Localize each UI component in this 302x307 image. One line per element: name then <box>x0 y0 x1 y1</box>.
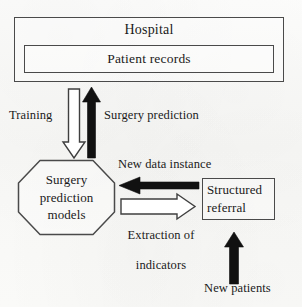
new-patients-arrow <box>225 232 244 284</box>
surgery-models-line-2: prediction <box>17 189 116 207</box>
patient-records-node-label: Patient records <box>107 51 191 67</box>
surgery-models-line-1: Surgery <box>17 171 116 189</box>
surgery-prediction-arrow <box>83 87 101 158</box>
hospital-node-label: Hospital <box>15 21 283 38</box>
surgery-prediction-edge-label: Surgery prediction <box>104 108 199 123</box>
surgery-prediction-models-node-label: Surgery prediction models <box>17 171 116 224</box>
extraction-label-line-1: Extraction of <box>118 228 204 243</box>
extraction-of-indicators-edge-label: Extraction of indicators <box>118 213 204 288</box>
structured-referral-line-1: Structured <box>207 181 274 199</box>
surgery-prediction-models-node: Surgery prediction models <box>17 159 116 236</box>
workflow-diagram: Hospital Patient records Surgery predict… <box>0 0 302 307</box>
structured-referral-node: Structured referral <box>202 178 275 220</box>
extraction-label-line-2: indicators <box>118 258 204 273</box>
structured-referral-node-label: Structured referral <box>207 181 274 217</box>
new-data-instance-edge-label: New data instance <box>118 157 211 172</box>
training-edge-label: Training <box>9 108 52 123</box>
structured-referral-line-2: referral <box>207 199 274 217</box>
patient-records-node: Patient records <box>24 45 274 73</box>
training-arrow <box>63 89 85 158</box>
new-patients-edge-label: New patients <box>204 281 271 296</box>
new-data-instance-arrow <box>119 177 199 194</box>
surgery-models-line-3: models <box>17 206 116 224</box>
